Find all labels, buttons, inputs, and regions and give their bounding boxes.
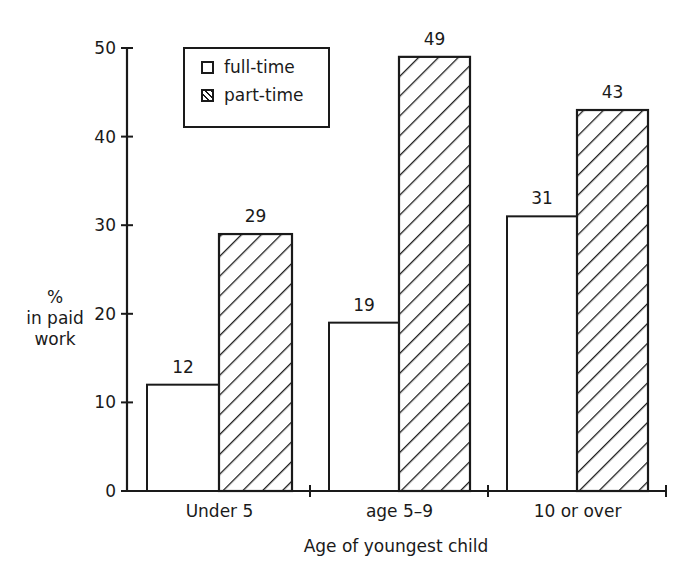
value-label-part-time: 49 <box>424 29 446 49</box>
value-label-part-time: 29 <box>245 206 267 226</box>
legend-item-full-time: full-time <box>201 57 295 77</box>
full-time-swatch-icon <box>201 61 214 74</box>
y-tick-label: 10 <box>94 392 116 412</box>
category-label: age 5–9 <box>366 501 433 521</box>
y-axis-title-line-2: in paid <box>20 308 90 329</box>
y-axis-title: % in paid work <box>20 287 90 350</box>
y-axis-title-line-1: % <box>20 287 90 308</box>
y-axis-title-line-3: work <box>20 329 90 350</box>
category-label: Under 5 <box>186 501 254 521</box>
legend-item-part-time: part-time <box>201 85 303 105</box>
y-axis: 01020304050 <box>94 38 133 501</box>
y-tick-label: 30 <box>94 215 116 235</box>
y-tick-label: 20 <box>94 304 116 324</box>
legend-label: full-time <box>224 57 295 77</box>
category-labels: Under 5age 5–910 or over <box>186 501 622 521</box>
bar-part-time <box>577 110 648 491</box>
bar-full-time <box>147 385 219 491</box>
x-axis-title: Age of youngest child <box>304 536 489 556</box>
value-label-full-time: 19 <box>353 295 375 315</box>
y-tick-label: 0 <box>105 481 116 501</box>
bar-full-time <box>507 216 577 491</box>
legend: full-time part-time <box>183 47 330 128</box>
bar-chart: 01020304050 122919493143 Under 5age 5–91… <box>0 0 693 582</box>
value-label-full-time: 31 <box>531 188 553 208</box>
y-tick-label: 40 <box>94 127 116 147</box>
bar-full-time <box>329 323 399 491</box>
value-label-part-time: 43 <box>602 82 624 102</box>
category-label: 10 or over <box>534 501 622 521</box>
value-label-full-time: 12 <box>172 357 194 377</box>
bar-part-time <box>399 57 470 491</box>
y-tick-label: 50 <box>94 38 116 58</box>
bar-part-time <box>219 234 292 491</box>
legend-label: part-time <box>224 85 303 105</box>
part-time-swatch-icon <box>201 89 214 102</box>
